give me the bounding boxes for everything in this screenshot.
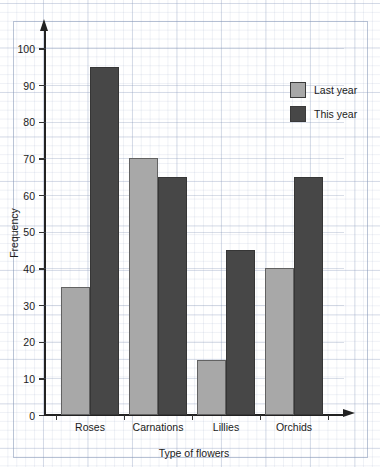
- y-axis-arrow: [40, 19, 48, 31]
- legend-item: This year: [290, 102, 357, 126]
- y-tick-label: 70: [23, 154, 35, 165]
- y-tick: 40: [39, 268, 44, 269]
- category-label: Carnations: [133, 422, 184, 433]
- y-tick-label: 80: [23, 117, 35, 128]
- category-label: Roses: [75, 422, 105, 433]
- y-tick-label: 40: [23, 264, 35, 275]
- x-tick: [260, 415, 261, 420]
- category-label: Orchids: [276, 422, 312, 433]
- y-tick-label: 10: [23, 374, 35, 385]
- bar: [61, 287, 90, 415]
- y-tick: 50: [39, 232, 44, 233]
- bar-chart-figure: 0102030405060708090100 RosesCarnationsLi…: [0, 0, 380, 467]
- y-tick-label: 0: [29, 410, 35, 421]
- chart-legend: Last yearThis year: [290, 78, 357, 126]
- y-tick-label: 60: [23, 190, 35, 201]
- gridline: [44, 158, 344, 159]
- y-axis-title: Frequency: [8, 208, 20, 258]
- bar: [294, 177, 323, 415]
- bar: [265, 268, 294, 415]
- legend-label: This year: [314, 109, 357, 120]
- x-tick: [124, 415, 125, 420]
- y-tick-label: 20: [23, 337, 35, 348]
- bar: [90, 67, 119, 415]
- x-axis-title: Type of flowers: [159, 447, 230, 459]
- legend-swatch: [290, 82, 306, 98]
- y-tick-label: 90: [23, 80, 35, 91]
- category-label: Lillies: [213, 422, 239, 433]
- x-tick: [56, 415, 57, 420]
- legend-item: Last year: [290, 78, 357, 102]
- y-tick: 100: [39, 48, 44, 49]
- y-tick: 90: [39, 85, 44, 86]
- x-tick: [328, 415, 329, 420]
- y-tick: 60: [39, 195, 44, 196]
- bar: [129, 158, 158, 415]
- x-tick: [192, 415, 193, 420]
- y-axis-line: [44, 30, 46, 415]
- y-tick: 0: [39, 415, 44, 416]
- bar: [226, 250, 255, 415]
- y-tick-label: 30: [23, 300, 35, 311]
- y-tick: 10: [39, 378, 44, 379]
- y-tick-label: 100: [17, 44, 35, 55]
- y-tick: 20: [39, 342, 44, 343]
- y-tick: 30: [39, 305, 44, 306]
- legend-label: Last year: [314, 85, 357, 96]
- x-axis-arrow: [343, 409, 355, 417]
- legend-swatch: [290, 106, 306, 122]
- gridline: [44, 48, 344, 49]
- y-tick-label: 50: [23, 227, 35, 238]
- y-tick: 70: [39, 158, 44, 159]
- bar: [197, 360, 226, 415]
- bar: [158, 177, 187, 415]
- y-tick: 80: [39, 122, 44, 123]
